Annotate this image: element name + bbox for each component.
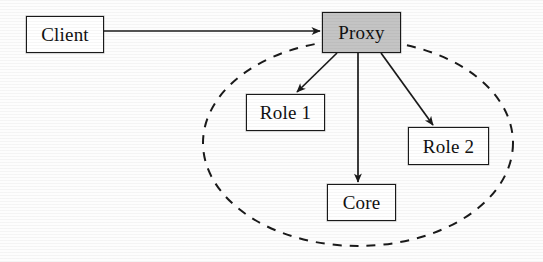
node-proxy-label: Proxy: [338, 23, 384, 42]
node-role-1: Role 1: [246, 94, 325, 131]
node-core: Core: [327, 184, 396, 221]
node-proxy: Proxy: [322, 12, 401, 53]
node-client-label: Client: [41, 25, 89, 44]
node-role-2-label: Role 2: [423, 137, 474, 156]
node-role-1-label: Role 1: [260, 103, 311, 122]
edge-proxy-to-role1: [297, 53, 337, 92]
edge-proxy-to-role2: [381, 53, 433, 125]
diagram-canvas: Client Proxy Role 1 Role 2 Core: [0, 0, 543, 262]
node-role-2: Role 2: [408, 127, 489, 165]
node-client: Client: [26, 16, 104, 53]
node-core-label: Core: [343, 193, 381, 212]
